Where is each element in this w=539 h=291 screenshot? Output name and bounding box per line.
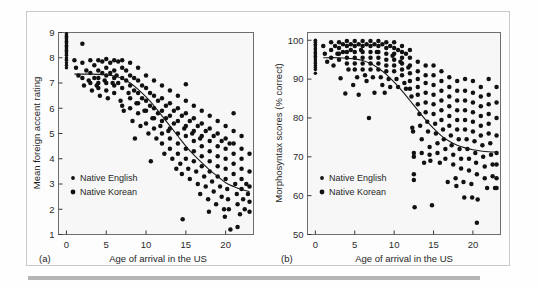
data-point [329,48,334,53]
x-tick-label: 15 [181,239,192,250]
data-point [146,131,151,136]
data-point [439,98,444,103]
data-point [239,134,244,139]
data-point [419,151,424,156]
data-point [453,176,458,181]
data-point [223,177,228,182]
data-point [231,129,236,134]
y-tick-labels-b: 5060708090100 [288,35,304,240]
data-point [411,129,416,134]
data-point [445,180,450,185]
data-point [108,61,113,66]
data-point [96,76,101,81]
data-point [231,151,236,156]
data-point [200,121,205,126]
data-point [219,139,224,144]
data-point [368,44,373,49]
data-point [241,197,246,202]
data-point [138,124,143,128]
data-point [186,167,191,172]
data-point [471,90,476,95]
data-point [474,160,479,165]
data-point [184,157,189,162]
data-point [349,42,354,47]
data-point [463,108,468,113]
data-point [461,180,466,185]
data-point [494,100,499,105]
data-point [112,58,117,63]
data-point [160,119,165,124]
y-axis-title-a: Mean foreign accent rating [31,77,42,189]
data-point [152,93,157,98]
data-point [360,44,365,49]
data-point [136,91,141,96]
data-point [408,87,413,92]
data-point [242,207,247,212]
data-point [486,131,491,136]
data-point [400,67,405,72]
data-point [479,104,484,109]
data-points-native-english-b [314,39,318,76]
data-point [314,43,318,47]
x-tick-label: 0 [313,239,318,250]
data-point [200,154,205,159]
data-point [341,50,346,55]
data-point [214,202,219,207]
data-point [363,73,368,78]
y-tick-label: 50 [293,229,304,240]
data-point [341,42,346,47]
data-point [96,86,101,91]
data-point [247,199,252,204]
data-point [457,147,462,152]
data-point [314,62,318,66]
y-tick-label: 3 [49,178,54,189]
data-point [337,46,342,51]
data-point [467,168,472,173]
data-point [65,37,69,41]
legend-marker-native-english-b [320,176,324,180]
data-point [215,154,220,159]
data-point [215,131,220,136]
data-point [96,58,101,63]
data-point [210,179,215,184]
data-point [455,127,460,131]
data-point [124,68,128,73]
data-point [100,59,105,64]
data-point [246,192,251,197]
data-point [372,90,377,95]
data-point [371,75,376,80]
data-point [148,103,153,108]
data-point [104,81,109,86]
data-point [368,67,373,72]
data-point [392,40,397,45]
data-point [475,221,480,226]
data-point [120,58,125,63]
data-point [184,82,189,87]
data-point [376,61,381,66]
data-point [494,162,499,167]
data-point [416,85,421,90]
data-point [128,73,133,78]
data-point [104,88,109,93]
data-point [184,111,189,116]
data-point [463,98,468,103]
data-point [431,73,436,78]
data-point [364,42,369,47]
data-point [345,50,350,55]
data-point [198,192,203,197]
x-tick-label: 10 [389,239,400,250]
data-point [136,111,141,116]
data-point [402,81,407,86]
data-point [215,144,220,149]
data-point [353,50,358,55]
data-point [207,114,212,119]
data-point [92,76,97,81]
x-tick-label: 20 [468,239,479,250]
data-point [314,47,318,51]
data-point [360,50,365,55]
legend-label-native-korean-b: Native Korean [329,187,386,197]
data-point [353,67,358,72]
data-point [392,63,397,68]
x-tick-labels-a: 05101520 [64,239,231,250]
data-point [423,100,428,105]
